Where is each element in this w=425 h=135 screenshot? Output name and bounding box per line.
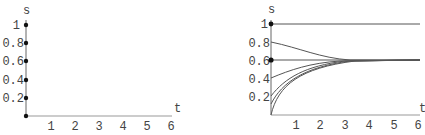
svg-text:4: 4: [365, 119, 372, 133]
svg-text:0.4: 0.4: [248, 73, 270, 87]
left-x-label: t: [174, 102, 181, 116]
curve-s0-0: [271, 60, 420, 115]
right-x-ticks: 1 2 3 4 5 6: [292, 119, 421, 133]
svg-text:1: 1: [261, 18, 268, 32]
svg-text:3: 3: [341, 119, 348, 133]
right-x-label: t: [419, 102, 425, 116]
left-x-ticks: 1 2 3 4 5 6: [47, 120, 174, 134]
chart-canvas: s t 1 0.8 0.6 0.4 0.2 1 2 3 4 5 6: [0, 0, 425, 135]
left-chart: s t 1 0.8 0.6 0.4 0.2 1 2 3 4 5 6: [2, 4, 181, 134]
left-y-label: s: [23, 4, 30, 18]
right-y-ticks: 1 0.8 0.6 0.4 0.2: [248, 18, 270, 105]
svg-text:0.4: 0.4: [2, 74, 24, 88]
svg-text:0.6: 0.6: [248, 55, 270, 69]
svg-text:0.8: 0.8: [248, 37, 270, 51]
right-y-label: s: [268, 3, 275, 17]
right-curves: [271, 24, 420, 115]
svg-text:1: 1: [13, 19, 20, 33]
svg-text:1: 1: [47, 120, 54, 134]
svg-text:0.2: 0.2: [248, 91, 270, 105]
svg-text:4: 4: [119, 120, 126, 134]
curve-s0-0.8: [271, 42, 420, 60]
svg-text:6: 6: [414, 119, 421, 133]
right-chart: s t 1 0.8 0.6 0.4 0.2 1 2 3 4 5 6: [248, 3, 425, 133]
svg-text:2: 2: [71, 120, 78, 134]
svg-text:5: 5: [143, 120, 150, 134]
curve-s0-0.2: [271, 60, 420, 96]
curve-s0-0.1: [271, 60, 420, 104]
svg-text:0.8: 0.8: [2, 37, 24, 51]
svg-text:3: 3: [95, 120, 102, 134]
svg-text:6: 6: [167, 120, 174, 134]
svg-text:1: 1: [292, 119, 299, 133]
svg-text:2: 2: [316, 119, 323, 133]
svg-text:0.6: 0.6: [2, 55, 24, 69]
svg-text:5: 5: [390, 119, 397, 133]
svg-text:0.2: 0.2: [2, 92, 24, 106]
left-y-ticks: 1 0.8 0.6 0.4 0.2: [2, 19, 24, 106]
